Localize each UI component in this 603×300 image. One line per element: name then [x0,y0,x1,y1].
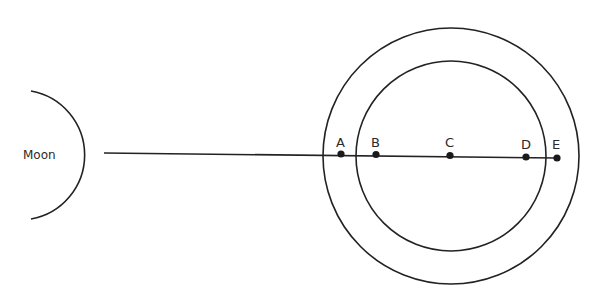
point-c-dot [446,152,453,159]
point-b-label: B [371,135,380,150]
point-a-label: A [336,135,345,150]
point-d: D [521,137,531,161]
moon-line [104,153,557,158]
point-d-dot [522,153,529,160]
moon-label: Moon [23,148,56,162]
point-e-label: E [552,137,560,152]
point-b-dot [372,151,379,158]
point-c: C [445,135,454,159]
point-d-label: D [521,137,531,152]
point-e-dot [553,154,560,161]
moon-earth-diagram: Moon A B C D E [0,0,603,300]
point-a-dot [337,150,344,157]
point-b: B [371,135,380,158]
point-a: A [336,135,345,158]
point-c-label: C [445,135,454,150]
